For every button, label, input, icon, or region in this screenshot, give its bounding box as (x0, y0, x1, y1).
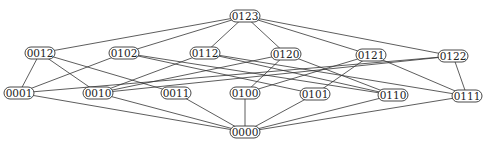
node-0000: 0000 (230, 126, 260, 138)
node-0112: 0112 (190, 47, 220, 59)
node-0122: 0122 (438, 50, 468, 62)
node-label: 0010 (85, 87, 112, 99)
node-0111: 0111 (452, 90, 482, 102)
node-0101: 0101 (300, 88, 330, 100)
node-label: 0121 (358, 49, 385, 61)
node-label: 0011 (163, 87, 190, 99)
node-label: 0110 (380, 89, 407, 101)
node-label: 0101 (302, 88, 329, 100)
hasse-diagram: 0123001201020112012001210122000100100011… (0, 0, 490, 142)
node-label: 0120 (273, 48, 300, 60)
node-label: 0122 (440, 50, 467, 62)
node-label: 0112 (192, 47, 219, 59)
node-0102: 0102 (109, 47, 139, 59)
node-0001: 0001 (4, 87, 34, 99)
node-label: 0100 (232, 87, 259, 99)
node-label: 0000 (232, 126, 259, 138)
node-0123: 0123 (230, 10, 260, 22)
node-label: 0012 (27, 47, 54, 59)
node-0110: 0110 (378, 89, 408, 101)
node-label: 0001 (6, 87, 33, 99)
node-0011: 0011 (161, 87, 191, 99)
node-0120: 0120 (271, 48, 301, 60)
edge-0110-0000 (245, 95, 393, 132)
edge-0122-0010 (98, 56, 453, 93)
node-label: 0123 (232, 10, 259, 22)
diagram-canvas: 0123001201020112012001210122000100100011… (0, 0, 490, 142)
edges (19, 16, 467, 132)
node-label: 0102 (111, 47, 138, 59)
node-0012: 0012 (25, 47, 55, 59)
node-0100: 0100 (230, 87, 260, 99)
node-0121: 0121 (356, 49, 386, 61)
node-label: 0111 (454, 90, 481, 102)
node-0010: 0010 (83, 87, 113, 99)
edge-0123-0121 (245, 16, 371, 55)
